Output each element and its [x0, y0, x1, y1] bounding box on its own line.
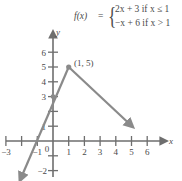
x-tick-label-5: 5 [129, 147, 134, 157]
y-tick-label-4: 4 [42, 77, 47, 87]
x-tick-label-6: 6 [145, 147, 150, 157]
y-intercept-dot [51, 94, 56, 99]
ray-decreasing [69, 67, 128, 123]
y-tick-label-5: 5 [42, 62, 47, 72]
x-tick-label--3: −3 [1, 147, 11, 157]
x-tick-label-4: 4 [114, 147, 119, 157]
origin-label: 0 [45, 144, 50, 154]
x-tick-labels: −3 −1 1 2 3 4 5 6 0 [1, 144, 150, 157]
y-tick-label-3: 3 [42, 92, 47, 102]
x-tick-label-1: 1 [66, 147, 71, 157]
y-axis-label: y [55, 27, 60, 37]
x-tick-label-2: 2 [82, 147, 87, 157]
piecewise-graph: −3 −1 1 2 3 4 5 6 0 6 5 4 3 1 −2 x y [0, 0, 182, 181]
x-tick-label-3: 3 [98, 147, 103, 157]
vertex-point-dot [66, 64, 71, 69]
y-tick-label-6: 6 [42, 48, 47, 58]
y-tick-label--2: −2 [37, 166, 47, 176]
x-axis-label: x [168, 136, 173, 146]
vertex-point-label: (1, 5) [74, 58, 94, 68]
figure-canvas: f(x) = { 2x + 3 if x ≤ 1 −x + 6 if x > 1 [0, 0, 182, 181]
